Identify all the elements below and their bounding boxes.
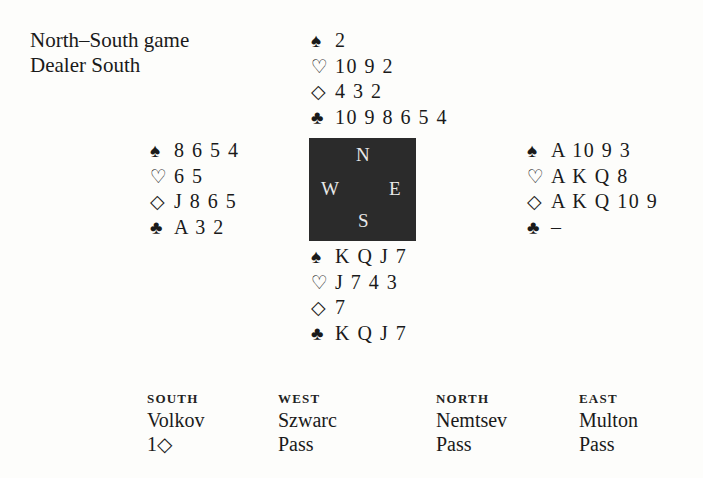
- east-hand: ♠A 10 9 3 ♡A K Q 8 ◇A K Q 10 9 ♣–: [527, 138, 658, 240]
- club-icon: ♣: [150, 215, 174, 241]
- compass-south: S: [358, 210, 369, 232]
- auction-column-east: EAST Multon Pass: [579, 390, 638, 456]
- player-name: Volkov: [147, 408, 204, 432]
- auction-column-north: NORTH Nemtsev Pass: [436, 390, 507, 456]
- compass-table: N W E S: [309, 138, 416, 241]
- spade-icon: ♠: [311, 28, 335, 54]
- north-clubs: ♣10 9 8 6 5 4: [311, 105, 448, 131]
- east-hearts: ♡A K Q 8: [527, 164, 658, 190]
- west-diamonds: ◇J 8 6 5: [150, 189, 240, 215]
- club-icon: ♣: [311, 105, 335, 131]
- north-hearts: ♡10 9 2: [311, 54, 448, 80]
- auction-column-west: WEST Szwarc Pass: [278, 390, 337, 456]
- east-clubs: ♣–: [527, 215, 658, 241]
- south-spades: ♠K Q J 7: [311, 244, 407, 270]
- spade-icon: ♠: [527, 138, 551, 164]
- south-hearts: ♡J 7 4 3: [311, 270, 407, 296]
- south-hand: ♠K Q J 7 ♡J 7 4 3 ◇7 ♣K Q J 7: [311, 244, 407, 346]
- seat-header: NORTH: [436, 390, 507, 408]
- north-spades: ♠2: [311, 28, 448, 54]
- heart-icon: ♡: [527, 164, 551, 190]
- player-name: Nemtsev: [436, 408, 507, 432]
- heart-icon: ♡: [311, 270, 335, 296]
- spade-icon: ♠: [150, 138, 174, 164]
- west-hearts: ♡6 5: [150, 164, 240, 190]
- diamond-icon: ◇: [311, 295, 335, 321]
- bid: Pass: [579, 432, 638, 456]
- seat-header: WEST: [278, 390, 337, 408]
- compass-north: N: [356, 144, 370, 166]
- player-name: Szwarc: [278, 408, 337, 432]
- bid: Pass: [278, 432, 337, 456]
- deal-info: North–South game Dealer South: [30, 28, 189, 78]
- club-icon: ♣: [311, 321, 335, 347]
- seat-header: SOUTH: [147, 390, 204, 408]
- player-name: Multon: [579, 408, 638, 432]
- diamond-icon: ◇: [311, 79, 335, 105]
- west-spades: ♠8 6 5 4: [150, 138, 240, 164]
- bid: 1◇: [147, 432, 204, 456]
- west-clubs: ♣A 3 2: [150, 215, 240, 241]
- west-hand: ♠8 6 5 4 ♡6 5 ◇J 8 6 5 ♣A 3 2: [150, 138, 240, 240]
- diamond-icon: ◇: [150, 189, 174, 215]
- dealer-label: Dealer South: [30, 53, 189, 78]
- north-hand: ♠2 ♡10 9 2 ◇4 3 2 ♣10 9 8 6 5 4: [311, 28, 448, 130]
- east-diamonds: ◇A K Q 10 9: [527, 189, 658, 215]
- bid: Pass: [436, 432, 507, 456]
- east-spades: ♠A 10 9 3: [527, 138, 658, 164]
- compass-west: W: [321, 178, 339, 200]
- vulnerability-label: North–South game: [30, 28, 189, 53]
- seat-header: EAST: [579, 390, 638, 408]
- south-diamonds: ◇7: [311, 295, 407, 321]
- heart-icon: ♡: [150, 164, 174, 190]
- heart-icon: ♡: [311, 54, 335, 80]
- south-clubs: ♣K Q J 7: [311, 321, 407, 347]
- spade-icon: ♠: [311, 244, 335, 270]
- auction-column-south: SOUTH Volkov 1◇: [147, 390, 204, 456]
- club-icon: ♣: [527, 215, 551, 241]
- compass-east: E: [389, 178, 401, 200]
- north-diamonds: ◇4 3 2: [311, 79, 448, 105]
- diamond-icon: ◇: [527, 189, 551, 215]
